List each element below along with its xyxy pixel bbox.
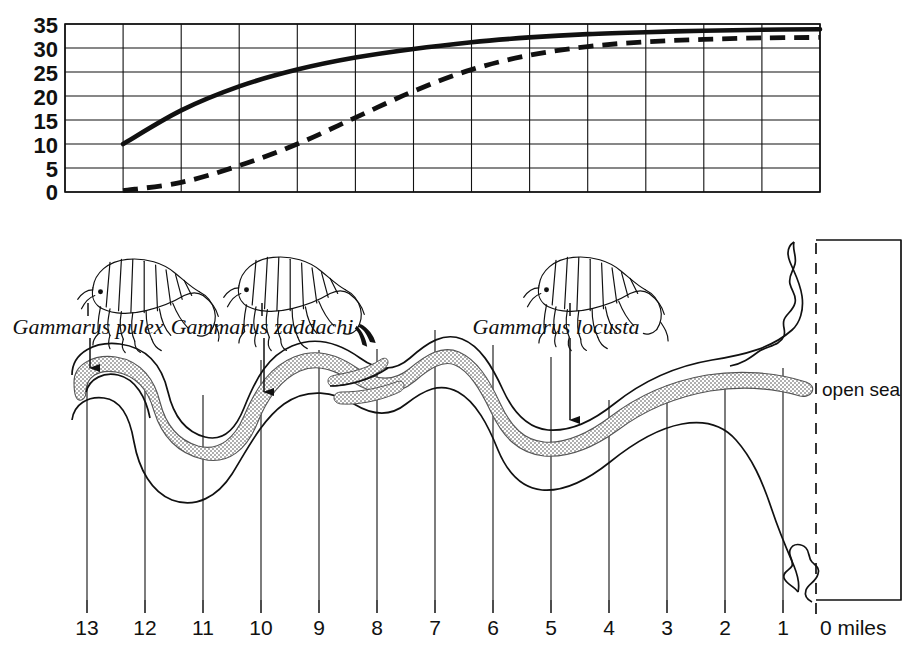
mile-tick-10: 10: [249, 616, 272, 639]
mile-tick-5: 5: [545, 616, 557, 639]
y-tick-0: 0: [46, 180, 58, 205]
mile-tick-3: 3: [661, 616, 673, 639]
y-tick-5: 5: [46, 157, 58, 182]
y-tick-10: 10: [34, 133, 58, 158]
mile-tick-12: 12: [133, 616, 156, 639]
y-tick-35: 35: [34, 13, 58, 38]
mile-tick-4: 4: [603, 616, 615, 639]
estuary-salinity-figure: 35 30 25 20 15 10 5 0: [0, 0, 924, 649]
mile-tick-8: 8: [371, 616, 383, 639]
y-tick-15: 15: [34, 109, 58, 134]
mile-tick-2: 2: [719, 616, 731, 639]
y-tick-25: 25: [34, 61, 58, 86]
y-tick-20: 20: [34, 85, 58, 110]
mile-tick-13: 13: [75, 616, 98, 639]
species-label-pulex: Gammarus pulex: [13, 314, 164, 339]
mile-tick-11: 11: [192, 616, 214, 639]
mile-tick-9: 9: [313, 616, 325, 639]
open-sea-label: open sea: [822, 379, 901, 400]
mile-tick-6: 6: [487, 616, 499, 639]
y-tick-30: 30: [34, 37, 58, 62]
mile-tick-1: 1: [777, 616, 789, 639]
mile-tick-7: 7: [429, 616, 441, 639]
zero-miles-label: 0 miles: [820, 616, 887, 639]
